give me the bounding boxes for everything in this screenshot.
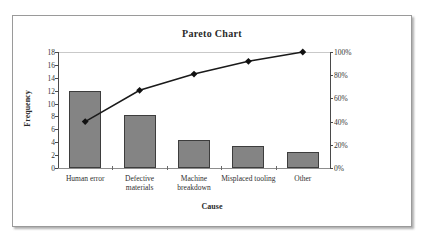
- plot-area: 024681012141618 0%20%40%60%80%100% Human…: [58, 52, 330, 168]
- y-axis-title: Frequency: [23, 83, 32, 135]
- cumulative-line-series: [58, 52, 330, 168]
- x-axis-category-label: Other: [270, 174, 336, 183]
- y-axis-right-tick-mark: [330, 98, 333, 99]
- y-axis-right-tick-label: 0%: [334, 164, 344, 173]
- line-marker-diamond: [136, 87, 143, 94]
- y-axis-left-tick-mark: [55, 168, 58, 169]
- y-axis-left-tick-label: 10: [48, 99, 56, 108]
- y-axis-left-tick-label: 16: [48, 60, 56, 69]
- y-axis-right-tick-mark: [330, 145, 333, 146]
- x-axis-tick-mark: [221, 166, 222, 170]
- y-axis-right-tick-mark: [330, 122, 333, 123]
- y-axis-right-tick-label: 40%: [334, 117, 348, 126]
- x-axis-title: Cause: [13, 202, 411, 211]
- y-axis-right-line: [330, 52, 331, 168]
- y-axis-right-tick-label: 100%: [334, 48, 352, 57]
- y-axis-right-tick-mark: [330, 168, 333, 169]
- x-axis-tick-mark: [167, 166, 168, 170]
- cumulative-line: [85, 52, 303, 122]
- y-axis-right-tick-label: 60%: [334, 94, 348, 103]
- line-marker-diamond: [299, 49, 306, 56]
- chart-title: Pareto Chart: [13, 28, 411, 39]
- y-axis-right-tick-label: 80%: [334, 71, 348, 80]
- y-axis-right-tick-mark: [330, 52, 333, 53]
- x-axis-tick-mark: [112, 166, 113, 170]
- line-marker-diamond: [191, 71, 198, 78]
- line-marker-diamond: [245, 58, 252, 65]
- y-axis-right-tick-label: 20%: [334, 140, 348, 149]
- screenshot-root: Pareto Chart Frequency 024681012141618 0…: [0, 0, 426, 246]
- y-axis-left-tick-label: 12: [48, 86, 56, 95]
- y-axis-left-tick-label: 14: [48, 73, 56, 82]
- x-axis-tick-mark: [276, 166, 277, 170]
- line-marker-diamond: [82, 118, 89, 125]
- y-axis-left-tick-label: 18: [48, 48, 56, 57]
- chart-frame: Pareto Chart Frequency 024681012141618 0…: [12, 15, 412, 227]
- x-axis-line: [58, 168, 330, 169]
- y-axis-right-tick-mark: [330, 75, 333, 76]
